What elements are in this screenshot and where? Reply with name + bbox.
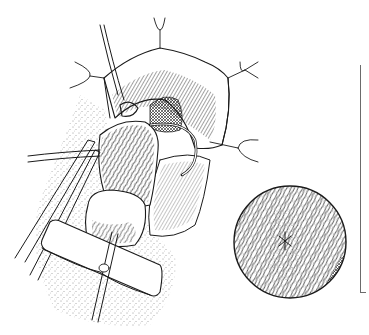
scale-bracket-line [360, 65, 361, 293]
surgical-illustration [0, 0, 369, 335]
magnified-inset [234, 186, 346, 298]
illustration-canvas [0, 0, 369, 335]
scale-bracket-foot [360, 292, 366, 293]
